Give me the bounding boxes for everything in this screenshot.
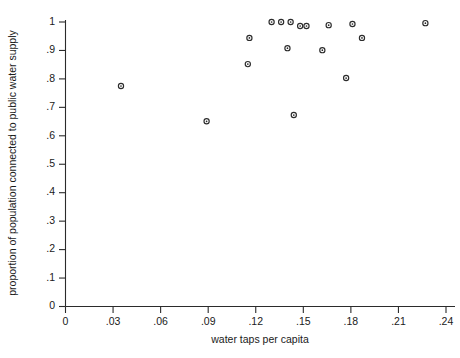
x-tick-label: .21 xyxy=(391,315,406,327)
y-tick-label: 1 xyxy=(49,15,55,27)
data-point-core xyxy=(425,22,427,24)
y-tick-label: .6 xyxy=(46,129,55,141)
data-point-core xyxy=(345,77,347,79)
data-point-core xyxy=(290,21,292,23)
x-axis-ticks: 0.03.06.09.12.15.18.21.24 xyxy=(63,307,454,328)
x-tick-label: 0 xyxy=(63,315,69,327)
y-tick-label: .8 xyxy=(46,72,55,84)
y-tick-label: .1 xyxy=(46,271,55,283)
data-point-core xyxy=(120,85,122,87)
y-tick-label: .4 xyxy=(46,185,55,197)
data-points-group xyxy=(118,19,428,123)
data-point-core xyxy=(271,21,273,23)
y-axis-title: proportion of population connected to pu… xyxy=(6,29,18,295)
data-point-core xyxy=(352,23,354,25)
x-axis-title: water taps per capita xyxy=(210,333,309,345)
x-tick-label: .06 xyxy=(153,315,168,327)
data-point-core xyxy=(328,24,330,26)
data-point-core xyxy=(306,25,308,27)
x-tick-label: .15 xyxy=(296,315,311,327)
y-tick-label: .5 xyxy=(46,157,55,169)
x-tick-label: .18 xyxy=(344,315,359,327)
x-tick-label: .24 xyxy=(439,315,454,327)
x-tick-label: .09 xyxy=(201,315,216,327)
y-tick-label: 0 xyxy=(49,299,55,311)
y-tick-label: .7 xyxy=(46,100,55,112)
data-point-core xyxy=(206,120,208,122)
data-point-core xyxy=(321,49,323,51)
data-point-core xyxy=(299,25,301,27)
x-tick-label: .12 xyxy=(248,315,263,327)
data-point-core xyxy=(249,37,251,39)
x-tick-label: .03 xyxy=(106,315,121,327)
y-tick-label: .3 xyxy=(46,214,55,226)
y-axis-ticks: 0.1.2.3.4.5.6.7.8.91 xyxy=(46,15,65,312)
data-point-core xyxy=(280,21,282,23)
data-point-core xyxy=(293,114,295,116)
y-tick-label: .9 xyxy=(46,43,55,55)
y-tick-label: .2 xyxy=(46,242,55,254)
data-point-core xyxy=(287,47,289,49)
scatter-plot-figure: 0.1.2.3.4.5.6.7.8.91 0.03.06.09.12.15.18… xyxy=(0,0,460,358)
plot-canvas: 0.1.2.3.4.5.6.7.8.91 0.03.06.09.12.15.18… xyxy=(0,0,460,358)
data-point-core xyxy=(247,63,249,65)
data-point-core xyxy=(361,37,363,39)
axes-group xyxy=(66,20,456,307)
